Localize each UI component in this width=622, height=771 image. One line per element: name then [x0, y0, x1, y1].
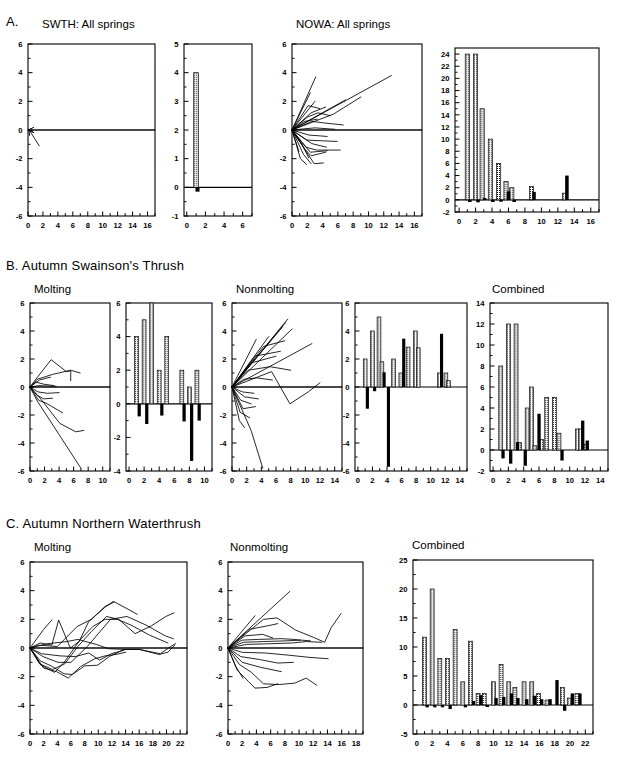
svg-text:-6: -6 — [343, 467, 350, 476]
svg-text:-4: -4 — [18, 701, 26, 710]
svg-text:12: 12 — [441, 476, 449, 485]
subplot-title-c-combined: Combined — [412, 539, 464, 551]
svg-text:16: 16 — [587, 217, 595, 226]
svg-text:4: 4 — [18, 68, 23, 77]
svg-text:12: 12 — [581, 476, 589, 485]
plot-b2: 0246810-4-20246 — [100, 296, 219, 487]
svg-text:20: 20 — [566, 739, 574, 748]
svg-text:16: 16 — [143, 221, 151, 230]
svg-text:6: 6 — [480, 383, 484, 392]
svg-text:0: 0 — [116, 400, 120, 409]
svg-text:4: 4 — [57, 476, 62, 485]
svg-text:3: 3 — [174, 97, 178, 106]
svg-text:14: 14 — [121, 739, 130, 748]
svg-text:4: 4 — [522, 476, 527, 485]
plot-svg: 0246810121416182022-6-4-20246 — [4, 555, 194, 750]
plot-svg: 02468101214-6-4-20246 — [206, 296, 349, 487]
plot-a2: 0246-1012345 — [158, 37, 259, 232]
svg-text:18: 18 — [550, 739, 558, 748]
plot-svg: 0246810121416-6-4-20246 — [2, 37, 162, 232]
svg-text:6: 6 — [71, 221, 75, 230]
svg-text:4: 4 — [218, 586, 223, 595]
svg-text:25: 25 — [399, 556, 408, 565]
svg-text:10: 10 — [537, 217, 545, 226]
svg-text:12: 12 — [309, 739, 317, 748]
svg-text:8: 8 — [86, 221, 90, 230]
svg-text:6: 6 — [20, 299, 24, 308]
svg-text:4: 4 — [259, 476, 264, 485]
plot-a1: 0246810121416-6-4-20246 — [2, 37, 162, 232]
svg-text:0: 0 — [403, 701, 407, 710]
svg-text:6: 6 — [241, 221, 245, 230]
svg-text:0: 0 — [28, 739, 32, 748]
panel-label-c: C. Autumn Northern Waterthrush — [6, 516, 201, 531]
plot-svg: 0246810121416182022-50510152025 — [387, 553, 600, 750]
svg-text:0: 0 — [28, 476, 32, 485]
subplot-title-c-nonmolting: Nonmolting — [230, 541, 288, 553]
svg-text:0: 0 — [491, 476, 495, 485]
svg-text:5: 5 — [174, 40, 179, 49]
svg-text:2: 2 — [445, 183, 449, 192]
plot-c1: 0246810121416182022-6-4-20246 — [4, 555, 194, 750]
svg-text:24: 24 — [441, 50, 450, 59]
svg-text:20: 20 — [162, 739, 170, 748]
svg-text:16: 16 — [535, 739, 543, 748]
svg-text:4: 4 — [254, 739, 259, 748]
svg-text:8: 8 — [283, 739, 287, 748]
svg-text:0: 0 — [20, 644, 24, 653]
svg-text:0: 0 — [415, 739, 419, 748]
svg-text:0: 0 — [480, 446, 484, 455]
svg-text:-2: -2 — [18, 672, 25, 681]
panel-label-b: B. Autumn Swainson's Thrush — [6, 258, 184, 273]
svg-text:6: 6 — [537, 476, 541, 485]
subplot-title-b-molting: Molting — [34, 283, 71, 295]
svg-text:1: 1 — [174, 154, 179, 163]
svg-text:12: 12 — [380, 221, 388, 230]
svg-text:6: 6 — [461, 739, 465, 748]
svg-text:8: 8 — [480, 362, 484, 371]
svg-text:20: 20 — [399, 585, 407, 594]
svg-text:4: 4 — [480, 404, 485, 413]
svg-text:6: 6 — [18, 40, 22, 49]
svg-text:0: 0 — [20, 383, 24, 392]
svg-text:4: 4 — [490, 217, 495, 226]
svg-text:8: 8 — [82, 739, 86, 748]
svg-text:6: 6 — [274, 476, 278, 485]
svg-text:6: 6 — [116, 299, 120, 308]
svg-text:2: 2 — [174, 126, 178, 135]
svg-text:12: 12 — [113, 221, 121, 230]
svg-text:2: 2 — [18, 97, 22, 106]
svg-text:4: 4 — [345, 327, 350, 336]
svg-text:14: 14 — [128, 221, 137, 230]
svg-text:12: 12 — [108, 739, 116, 748]
svg-text:-2: -2 — [443, 208, 450, 217]
svg-text:-6: -6 — [220, 467, 227, 476]
svg-text:16: 16 — [441, 98, 449, 107]
svg-text:4: 4 — [385, 476, 390, 485]
svg-text:0: 0 — [18, 126, 22, 135]
svg-text:8: 8 — [351, 221, 355, 230]
svg-text:2: 2 — [20, 355, 24, 364]
svg-text:-2: -2 — [216, 672, 223, 681]
svg-text:2: 2 — [282, 97, 286, 106]
svg-text:2: 2 — [222, 355, 226, 364]
svg-text:10: 10 — [441, 135, 449, 144]
svg-text:2: 2 — [245, 476, 249, 485]
svg-text:8: 8 — [187, 476, 191, 485]
svg-text:2: 2 — [305, 221, 309, 230]
svg-text:0: 0 — [356, 476, 360, 485]
subplot-title-b-nonmolting: Nonmolting — [236, 283, 294, 295]
svg-text:-4: -4 — [114, 467, 122, 476]
svg-text:8: 8 — [552, 476, 556, 485]
svg-text:16: 16 — [337, 739, 345, 748]
svg-text:15: 15 — [399, 614, 408, 623]
svg-text:10: 10 — [399, 643, 407, 652]
svg-text:0: 0 — [226, 739, 230, 748]
svg-text:4: 4 — [174, 68, 179, 77]
subplot-title-nowa-all-springs: NOWA: All springs — [296, 18, 390, 30]
svg-text:8: 8 — [445, 147, 449, 156]
svg-text:0: 0 — [127, 476, 131, 485]
svg-text:10: 10 — [301, 476, 309, 485]
svg-text:6: 6 — [345, 299, 349, 308]
svg-text:6: 6 — [506, 217, 510, 226]
